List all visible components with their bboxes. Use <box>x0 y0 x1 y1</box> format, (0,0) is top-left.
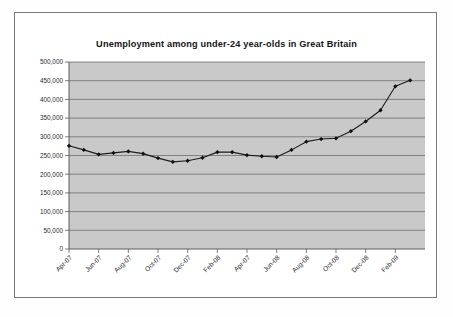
y-axis-tick-label: 150,000 <box>40 189 64 196</box>
chart-frame: Unemployment among under-24 year-olds in… <box>14 12 437 298</box>
x-axis-tick-label: Jun-08 <box>262 254 281 273</box>
x-axis-tick-label: Apr-07 <box>54 254 74 274</box>
x-axis-tick-label: Feb-08 <box>202 254 222 274</box>
x-axis-tick-label: Aug-07 <box>113 254 134 275</box>
line-chart-plot: 500,000450,000400,000350,000300,000250,0… <box>15 13 438 299</box>
x-axis-tick-label: Dec-08 <box>350 254 370 274</box>
x-axis-tick-label: Apr-07 <box>232 254 252 274</box>
y-axis-tick-label: 500,000 <box>40 58 64 65</box>
y-axis-tick-label: 400,000 <box>40 96 64 103</box>
x-axis-tick-label: Jun-07 <box>84 254 103 273</box>
x-axis-tick-label: Aug-08 <box>291 254 312 275</box>
y-axis <box>65 62 69 249</box>
y-axis-tick-label: 0 <box>59 245 63 252</box>
y-axis-tick-label: 250,000 <box>40 152 64 159</box>
y-axis-tick-label: 450,000 <box>40 77 64 84</box>
x-axis-tick-label: Feb-09 <box>380 254 400 274</box>
y-axis-tick-labels: 500,000450,000400,000350,000300,000250,0… <box>40 58 64 252</box>
figure-root: Unemployment among under-24 year-olds in… <box>0 0 453 317</box>
y-axis-tick-label: 200,000 <box>40 171 64 178</box>
x-axis-tick-label: Oct-07 <box>143 254 162 273</box>
y-axis-tick-label: 350,000 <box>40 114 64 121</box>
x-axis-tick-label: Dec-07 <box>172 254 192 274</box>
y-axis-tick-label: 300,000 <box>40 133 64 140</box>
y-axis-tick-label: 50,000 <box>43 227 63 234</box>
x-axis-tick-label: Oct-08 <box>321 254 340 273</box>
x-axis-tick-labels: Apr-07Jun-07Aug-07Oct-07Dec-07Feb-08Apr-… <box>54 254 400 275</box>
x-axis <box>69 249 425 253</box>
y-axis-tick-label: 100,000 <box>40 208 64 215</box>
